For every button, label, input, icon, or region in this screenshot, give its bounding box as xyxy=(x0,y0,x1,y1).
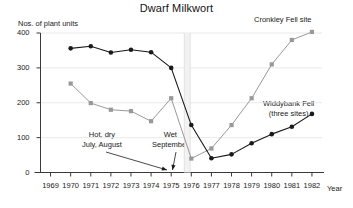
y-tick-label-100: 100 xyxy=(8,133,30,142)
data-point-cronkley-1978[interactable] xyxy=(229,123,233,127)
data-point-cronkley-1982[interactable] xyxy=(310,30,314,34)
data-point-widdybank-1973[interactable] xyxy=(129,47,134,52)
data-point-widdybank-1975[interactable] xyxy=(169,66,174,71)
data-point-cronkley-1973[interactable] xyxy=(129,109,133,113)
annotation-arrows xyxy=(106,152,176,171)
arrow-hot-dry-shaft xyxy=(106,152,167,170)
data-point-cronkley-1977[interactable] xyxy=(209,146,213,150)
plot-area xyxy=(0,0,353,208)
data-point-widdybank-1977[interactable] xyxy=(209,156,214,161)
data-series xyxy=(68,30,314,161)
y-tick-label-200: 200 xyxy=(8,98,30,107)
data-point-widdybank-1971[interactable] xyxy=(88,44,93,49)
y-tick-label-300: 300 xyxy=(8,63,30,72)
axes xyxy=(35,33,325,177)
y-tick-label-400: 400 xyxy=(8,28,30,37)
y-tick-label-0: 0 xyxy=(8,168,30,177)
arrow-hot-dry-head xyxy=(162,167,167,171)
data-point-widdybank-1978[interactable] xyxy=(229,152,234,157)
data-point-cronkley-1980[interactable] xyxy=(270,62,274,66)
data-point-cronkley-1979[interactable] xyxy=(250,96,254,100)
chart-container: Dwarf Milkwort Nos. of plant units Year … xyxy=(0,0,353,208)
data-point-cronkley-1976[interactable] xyxy=(189,156,193,160)
arrow-wet-september-head xyxy=(171,165,175,170)
data-point-cronkley-1972[interactable] xyxy=(109,108,113,112)
series-line-1 xyxy=(71,46,312,158)
data-point-cronkley-1974[interactable] xyxy=(149,119,153,123)
data-point-widdybank-1974[interactable] xyxy=(149,50,154,55)
data-point-widdybank-1980[interactable] xyxy=(269,132,274,137)
gridlines xyxy=(41,33,323,138)
x-tick-label-1982: 1982 xyxy=(300,181,324,190)
data-point-cronkley-1971[interactable] xyxy=(89,101,93,105)
data-point-widdybank-1981[interactable] xyxy=(290,125,295,130)
data-point-cronkley-1975[interactable] xyxy=(169,96,173,100)
data-point-widdybank-1970[interactable] xyxy=(68,46,73,51)
data-point-cronkley-1970[interactable] xyxy=(69,81,73,85)
data-point-widdybank-1982[interactable] xyxy=(310,112,315,117)
data-point-widdybank-1976[interactable] xyxy=(189,123,194,128)
data-point-cronkley-1981[interactable] xyxy=(290,38,294,42)
data-point-widdybank-1979[interactable] xyxy=(249,141,254,146)
data-point-widdybank-1972[interactable] xyxy=(109,50,114,55)
